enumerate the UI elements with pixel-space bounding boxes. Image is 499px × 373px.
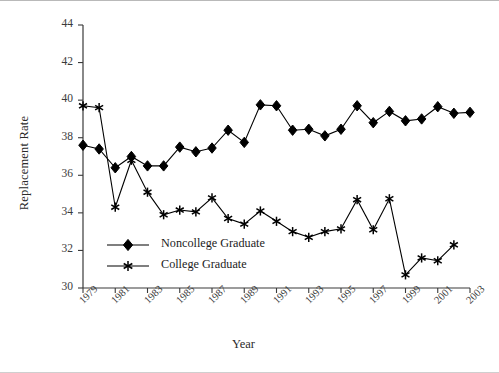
data-point-diamond xyxy=(192,147,201,157)
data-point-diamond xyxy=(321,131,330,141)
data-point-diamond xyxy=(466,107,475,117)
y-tick-label: 30 xyxy=(47,280,73,292)
series-layer xyxy=(79,100,475,280)
data-point-asterisk xyxy=(289,227,297,236)
series-noncollege-graduate xyxy=(79,100,475,173)
data-point-asterisk xyxy=(385,194,393,203)
data-point-diamond xyxy=(256,100,265,110)
data-point-asterisk xyxy=(305,233,313,242)
series-line xyxy=(83,106,454,275)
y-tick-label: 42 xyxy=(47,55,73,67)
y-tick-label: 34 xyxy=(47,205,73,217)
legend-label: College Graduate xyxy=(161,257,247,272)
data-point-diamond xyxy=(450,108,459,118)
data-point-diamond xyxy=(401,116,410,126)
data-point-diamond xyxy=(304,124,313,134)
chart-figure: Replacement Rate Year 303234363840424419… xyxy=(0,0,499,373)
chart-plot-area xyxy=(0,0,499,373)
legend-marker-diamond-icon xyxy=(123,239,132,250)
data-point-diamond xyxy=(385,106,394,116)
y-tick-label: 32 xyxy=(47,242,73,254)
y-tick-label: 44 xyxy=(47,17,73,29)
series-college-graduate xyxy=(79,101,458,279)
data-point-asterisk xyxy=(256,206,264,215)
data-point-asterisk xyxy=(111,203,119,212)
y-tick-label: 38 xyxy=(47,130,73,142)
legend-item-college-graduate[interactable] xyxy=(107,261,149,271)
legend-label: Noncollege Graduate xyxy=(161,236,265,251)
data-point-diamond xyxy=(143,161,152,171)
data-point-asterisk xyxy=(369,225,377,234)
series-line xyxy=(83,105,470,168)
legend-item-noncollege-graduate[interactable] xyxy=(107,239,149,250)
data-point-diamond xyxy=(240,137,249,147)
axes-layer xyxy=(78,25,470,293)
legend-layer xyxy=(107,239,149,271)
y-tick-label: 40 xyxy=(47,92,73,104)
data-point-diamond xyxy=(433,102,442,112)
data-point-asterisk xyxy=(240,220,248,229)
data-point-asterisk xyxy=(273,217,281,226)
y-tick-label: 36 xyxy=(47,167,73,179)
data-point-asterisk xyxy=(353,195,361,204)
data-point-diamond xyxy=(417,114,426,124)
data-point-diamond xyxy=(79,140,88,150)
